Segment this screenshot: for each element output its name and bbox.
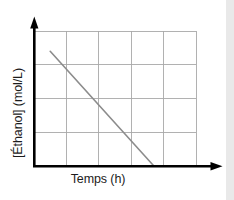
x-axis-label: Temps (h)	[0, 172, 196, 186]
x-axis-arrow-right-icon	[211, 162, 223, 170]
y-axis-arrow-up-icon	[30, 17, 38, 29]
chart-figure: Temps (h) [Éthanol] (mol/L)	[0, 0, 234, 200]
chart-plot-area	[0, 0, 234, 200]
y-axis-label: [Éthanol] (mol/L)	[11, 68, 29, 158]
